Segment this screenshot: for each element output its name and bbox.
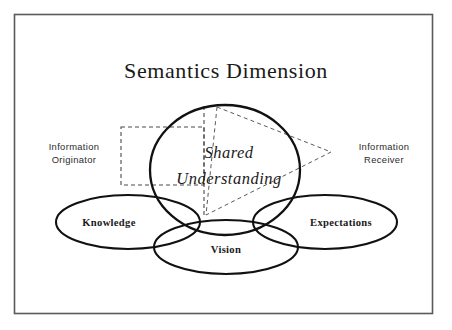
shared-understanding-line1: Shared — [204, 143, 253, 162]
vision-label: Vision — [211, 244, 241, 255]
information-originator-line1: Information — [49, 141, 100, 152]
information-receiver-line1: Information — [359, 141, 410, 152]
diagram-canvas: Semantics Dimension Shared Understanding… — [0, 0, 452, 330]
page-title: Semantics Dimension — [124, 58, 328, 83]
shared-understanding-line2: Understanding — [176, 169, 282, 188]
information-originator-line2: Originator — [52, 154, 97, 165]
semantics-dimension-figure: Semantics Dimension Shared Understanding… — [0, 0, 452, 330]
expectations-label: Expectations — [310, 217, 372, 228]
knowledge-label: Knowledge — [82, 217, 135, 228]
information-receiver-line2: Receiver — [364, 154, 404, 165]
